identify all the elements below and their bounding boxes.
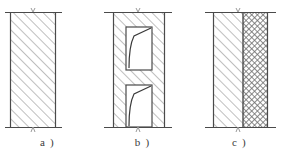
- panel-b: b ): [95, 0, 190, 163]
- center-tick-top-b: [136, 8, 140, 12]
- wall-section-figure: a ) b ): [0, 0, 287, 163]
- panel-c-caption: c ): [192, 136, 287, 148]
- structural-layer-c: [213, 12, 243, 127]
- wall-body-a: [10, 12, 56, 127]
- insulation-layer-c: [243, 12, 268, 127]
- panel-c: c ): [192, 0, 287, 163]
- panel-a: a ): [0, 0, 95, 163]
- center-tick-top-a: [31, 8, 35, 12]
- panel-a-caption: a ): [0, 136, 95, 148]
- panel-b-caption: b ): [95, 136, 190, 148]
- center-tick-top-c: [236, 8, 240, 12]
